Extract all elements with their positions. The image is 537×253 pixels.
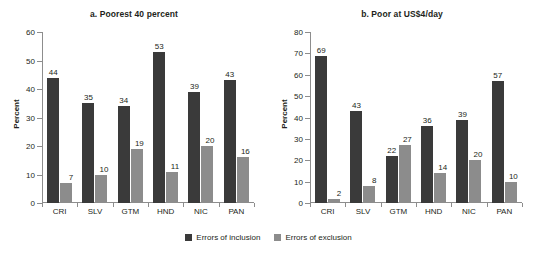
figure: a. Poorest 40 percent Percent 4473510341… — [0, 0, 537, 253]
y-tick-label: 20 — [26, 142, 35, 151]
bar[interactable]: 36 — [421, 126, 433, 203]
bar[interactable]: 20 — [469, 160, 481, 203]
bar-value-label: 22 — [387, 146, 396, 155]
y-tick-mark — [305, 75, 310, 76]
bar-value-label: 69 — [317, 46, 326, 55]
x-tick-label: PAN — [219, 207, 254, 216]
bar[interactable]: 14 — [434, 173, 446, 203]
y-tick-label: 30 — [26, 113, 35, 122]
bar[interactable]: 22 — [386, 156, 398, 203]
y-tick-mark — [305, 160, 310, 161]
bar-value-label: 39 — [458, 110, 467, 119]
bar[interactable]: 35 — [82, 103, 94, 203]
y-tick-label: 20 — [294, 156, 303, 165]
y-tick-label: 40 — [26, 85, 35, 94]
bar-value-label: 7 — [69, 173, 73, 182]
legend-item-exclusion[interactable]: Errors of exclusion — [274, 233, 351, 242]
bar[interactable]: 10 — [95, 175, 107, 204]
bar[interactable]: 2 — [328, 199, 340, 203]
panel-a-bar-groups: 44735103419531139204316 — [42, 32, 254, 203]
y-tick-mark — [305, 96, 310, 97]
x-tick-label: SLV — [345, 207, 380, 216]
bar[interactable]: 39 — [456, 120, 468, 203]
bar-value-label: 10 — [100, 165, 109, 174]
bar-value-label: 35 — [84, 93, 93, 102]
bar[interactable]: 19 — [131, 149, 143, 203]
y-tick-label: 50 — [294, 92, 303, 101]
bar-group: 3614 — [416, 32, 451, 203]
bar[interactable]: 43 — [224, 80, 236, 203]
panel-b-title: b. Poor at US$4/day — [268, 9, 536, 19]
bar[interactable]: 27 — [399, 145, 411, 203]
bar[interactable]: 39 — [188, 92, 200, 203]
bar-value-label: 20 — [206, 136, 215, 145]
bar-value-label: 8 — [372, 176, 376, 185]
bar-value-label: 53 — [155, 42, 164, 51]
y-tick-mark — [37, 175, 42, 176]
bar-value-label: 34 — [119, 96, 128, 105]
y-tick-label: 0 — [299, 199, 303, 208]
bar[interactable]: 10 — [505, 182, 517, 203]
y-tick-mark — [37, 118, 42, 119]
x-tick-label: GTM — [113, 207, 148, 216]
y-tick-label: 80 — [294, 28, 303, 37]
bar-group: 3920 — [183, 32, 218, 203]
y-tick-mark — [37, 146, 42, 147]
bar-value-label: 39 — [190, 82, 199, 91]
bar[interactable]: 7 — [60, 183, 72, 203]
y-tick-label: 0 — [31, 199, 35, 208]
y-tick-label: 10 — [26, 170, 35, 179]
bar-value-label: 14 — [438, 163, 447, 172]
bar[interactable]: 16 — [237, 157, 249, 203]
bar-group: 4316 — [219, 32, 254, 203]
y-tick-mark — [305, 32, 310, 33]
bar[interactable]: 53 — [153, 52, 165, 203]
x-tick-label: CRI — [42, 207, 77, 216]
x-tick-label: SLV — [77, 207, 112, 216]
bar[interactable]: 44 — [47, 78, 59, 203]
y-tick-mark — [305, 139, 310, 140]
x-tick-label: NIC — [183, 207, 218, 216]
legend-label: Errors of inclusion — [196, 233, 260, 242]
legend-item-inclusion[interactable]: Errors of inclusion — [185, 233, 260, 242]
bar[interactable]: 11 — [166, 172, 178, 203]
chart-panel-b: b. Poor at US$4/day Percent 692438222736… — [268, 0, 536, 228]
panel-a-title: a. Poorest 40 percent — [0, 9, 268, 19]
bar-value-label: 27 — [403, 135, 412, 144]
x-tick-label: PAN — [487, 207, 522, 216]
y-tick-label: 60 — [294, 70, 303, 79]
y-tick-label: 40 — [294, 113, 303, 122]
bar-value-label: 16 — [241, 147, 250, 156]
x-tick-label: HND — [416, 207, 451, 216]
legend-label: Errors of exclusion — [285, 233, 351, 242]
panel-b-x-tick-labels: CRISLVGTMHNDNICPAN — [310, 207, 522, 216]
bar-group: 447 — [42, 32, 77, 203]
bar[interactable]: 43 — [350, 111, 362, 203]
chart-panel-a: a. Poorest 40 percent Percent 4473510341… — [0, 0, 268, 228]
y-tick-mark — [305, 118, 310, 119]
legend-swatch-exclusion — [274, 234, 281, 241]
bar[interactable]: 34 — [118, 106, 130, 203]
bar-value-label: 57 — [493, 71, 502, 80]
y-tick-mark — [37, 32, 42, 33]
y-tick-label: 10 — [294, 177, 303, 186]
panel-b-y-axis-label: Percent — [280, 99, 289, 128]
bar-value-label: 19 — [135, 139, 144, 148]
panel-a-plot-area: 44735103419531139204316 0102030405060 — [42, 32, 254, 203]
bar-value-label: 43 — [225, 70, 234, 79]
bar[interactable]: 20 — [201, 146, 213, 203]
y-tick-label: 30 — [294, 134, 303, 143]
bar-group: 438 — [345, 32, 380, 203]
bar-group: 692 — [310, 32, 345, 203]
x-tick-mark — [254, 203, 255, 207]
chart-legend: Errors of inclusionErrors of exclusion — [0, 228, 537, 253]
bar-value-label: 11 — [171, 162, 179, 171]
x-tick-label: CRI — [310, 207, 345, 216]
panel-a-x-tick-labels: CRISLVGTMHNDNICPAN — [42, 207, 254, 216]
bar[interactable]: 69 — [315, 56, 327, 203]
y-tick-mark — [305, 182, 310, 183]
bar-value-label: 10 — [509, 172, 518, 181]
bar[interactable]: 57 — [492, 81, 504, 203]
bar[interactable]: 8 — [363, 186, 375, 203]
y-tick-mark — [37, 61, 42, 62]
